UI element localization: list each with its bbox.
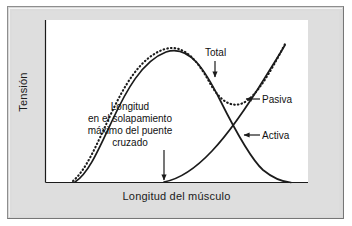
annotation-pasiva: Pasiva <box>262 94 292 106</box>
annotation-total: Total <box>205 47 226 59</box>
annotation-overlap-line-4: cruzado <box>84 137 176 149</box>
annotation-overlap: Longitud en el solapamiento máximo del p… <box>84 101 176 149</box>
annotation-overlap-line-1: Longitud <box>84 101 176 113</box>
length-tension-figure: Tensión Longitud del músculo Total Pasiv… <box>0 0 352 226</box>
annotation-activa: Activa <box>262 130 289 142</box>
y-axis-label: Tensión <box>17 47 29 137</box>
x-axis-label: Longitud del músculo <box>45 190 308 202</box>
annotation-overlap-line-3: máximo del puente <box>84 125 176 137</box>
annotation-overlap-line-2: en el solapamiento <box>84 113 176 125</box>
